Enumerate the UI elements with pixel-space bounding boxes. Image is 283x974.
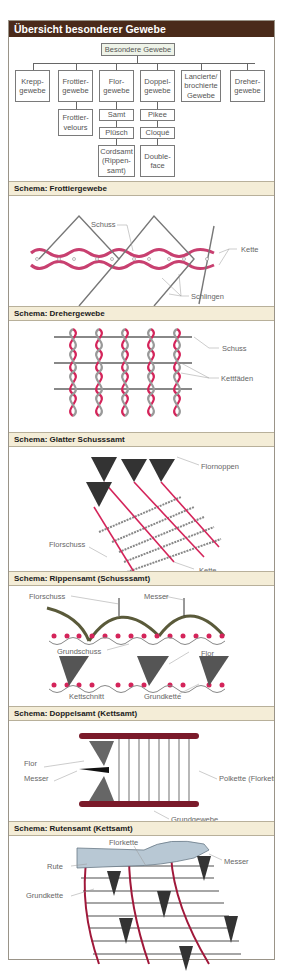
tree-node-samt: Samt	[99, 109, 134, 121]
svg-text:Flornoppen: Flornoppen	[201, 462, 239, 471]
svg-text:Kettschnitt: Kettschnitt	[69, 692, 105, 701]
svg-text:Grundschuss: Grundschuss	[57, 647, 101, 656]
tree-node-lanciert: Lancierte/ brochierte Gewebe	[181, 70, 221, 102]
section-header-rippensamt: Schema: Rippensamt (Schusssamt)	[9, 571, 274, 586]
glatter-schusssamt-diagram: Flornoppen Florschuss Grundschuss Kette	[9, 447, 274, 577]
tree-node-pikee: Pikee	[140, 109, 175, 121]
tree-node-pluesch: Plüsch	[99, 127, 134, 139]
section-header-doppelsamt: Schema: Doppelsamt (Kettsamt)	[9, 706, 274, 721]
frottier-diagram: Schuss Kette Schlingen	[9, 196, 274, 306]
tree-node-krepp: Krepp- gewebe	[15, 70, 50, 102]
svg-text:Messer: Messer	[224, 857, 249, 866]
svg-text:Schlingen: Schlingen	[191, 292, 224, 301]
svg-text:Florschuss: Florschuss	[29, 592, 66, 601]
tree-node-flor: Flor- gewebe	[99, 70, 134, 102]
section-header-dreher: Schema: Drehergewebe	[9, 306, 274, 321]
tree-node-cloque: Cloqué	[140, 127, 175, 139]
doppelsamt-diagram: Flor Messer Polkette (Florkette) Grundge…	[9, 721, 274, 831]
svg-text:Polkette (Florkette): Polkette (Florkette)	[219, 774, 274, 783]
dreher-diagram: Schuss Kettfäden	[9, 321, 274, 431]
svg-text:Messer: Messer	[144, 592, 169, 601]
tree-node-doubleface: Double- face	[140, 145, 175, 177]
svg-text:Flor: Flor	[24, 759, 37, 768]
section-header-frottier: Schema: Frottiergewebe	[9, 181, 274, 196]
svg-text:Florkette: Florkette	[109, 838, 138, 847]
overview-panel: Übersicht besonderer Gewebe Besondere Ge…	[8, 20, 275, 960]
tree-node-dreher: Dreher- gewebe	[230, 70, 265, 102]
rippensamt-diagram: Florschuss Messer Grundschuss Flor Ketts…	[9, 586, 274, 706]
svg-text:Grundkette: Grundkette	[144, 692, 181, 701]
tree-node-doppel: Doppel- gewebe	[140, 70, 175, 102]
tree-node-frottier: Frottier- gewebe	[58, 70, 93, 102]
svg-text:Kettfäden: Kettfäden	[221, 374, 253, 383]
rutensamt-diagram: Florkette Messer Rute Grundkette	[9, 836, 274, 974]
svg-text:Messer: Messer	[24, 774, 49, 783]
svg-text:Schuss: Schuss	[222, 344, 247, 353]
page-title: Übersicht besonderer Gewebe	[9, 21, 274, 37]
tree-node-cordsamt: Cordsamt (Rippen- samt)	[98, 145, 135, 177]
tree-root: Besondere Gewebe	[101, 43, 175, 56]
tree-node-frottiervelours: Frottier- velours	[58, 109, 93, 136]
svg-text:Schuss: Schuss	[91, 220, 116, 229]
svg-text:Grundkette: Grundkette	[26, 891, 63, 900]
svg-text:Rute: Rute	[47, 862, 63, 871]
svg-text:Florschuss: Florschuss	[49, 540, 86, 549]
svg-text:Flor: Flor	[201, 649, 214, 658]
section-header-glatter-schusssamt: Schema: Glatter Schusssamt	[9, 432, 274, 447]
svg-text:Kette: Kette	[241, 245, 259, 254]
section-header-rutensamt: Schema: Rutensamt (Kettsamt)	[9, 821, 274, 836]
